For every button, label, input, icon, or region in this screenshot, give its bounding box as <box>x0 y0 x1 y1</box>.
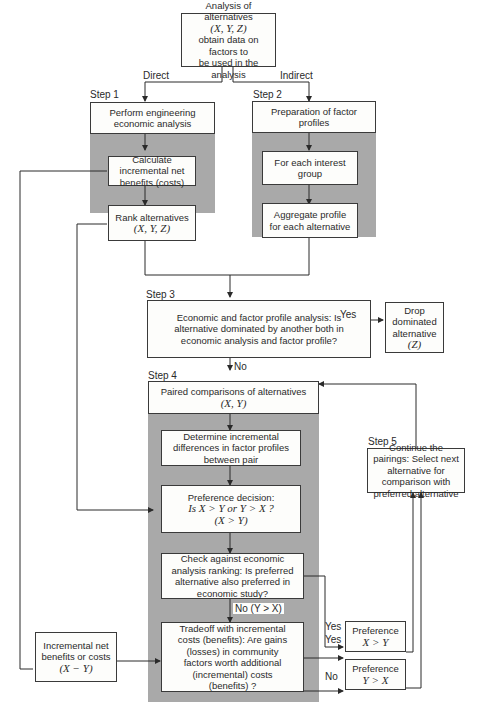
incremental-text: Incremental net benefits or costs <box>40 640 112 663</box>
incremental-math: (X − Y) <box>59 663 92 675</box>
start-line1: Analysis of alternatives <box>186 0 271 23</box>
pref-xy-text: Preference <box>352 625 398 637</box>
step4-differences-box: Determine incremental differences in fac… <box>161 430 301 466</box>
pref-xy-math: X > Y <box>363 637 389 649</box>
step2-label: Step 2 <box>253 89 282 100</box>
step4-differences-text: Determine incremental differences in fac… <box>166 431 296 466</box>
step1-rank-math: (X, Y, Z) <box>134 223 170 235</box>
step4-tradeoff-text: Tradeoff with incremental costs (benefit… <box>172 623 293 692</box>
start-line2: (X, Y, Z) <box>210 23 246 35</box>
preference-y-over-x-box: Preference Y > X <box>345 659 406 690</box>
step1-rank-box: Rank alternatives (X, Y, Z) <box>108 205 196 241</box>
drop-text: Drop dominated alternative <box>390 305 439 340</box>
step2-aggregate-box: Aggregate profile for each alternative <box>262 203 358 238</box>
step3-text: Economic and factor profile analysis: Is… <box>160 312 358 347</box>
preference-x-over-y-box: Preference X > Y <box>345 621 406 652</box>
step2-preparation-box: Preparation of factor profiles <box>252 101 376 133</box>
step4-label: Step 4 <box>148 370 177 381</box>
step1-engineering-text: Perform engineering economic analysis <box>95 107 210 130</box>
drop-math: (Z) <box>408 339 421 351</box>
start-line4: be used in the analysis <box>186 57 271 80</box>
yes-label-2: Yes <box>325 634 341 645</box>
step3-yes-label: Yes <box>340 309 356 320</box>
step4-check-box: Check against economic analysis ranking:… <box>161 553 304 599</box>
no-label: No <box>325 671 338 682</box>
step4-check-text: Check against economic analysis ranking:… <box>166 553 299 599</box>
step3-no-label: No <box>234 361 247 372</box>
step2-interest-text: For each interest group <box>267 157 353 180</box>
step5-text: Continue the pairings: Select next alter… <box>372 442 460 500</box>
pref-yx-math: Y > X <box>363 675 389 687</box>
direct-label: Direct <box>143 70 169 81</box>
start-box: Analysis of alternatives (X, Y, Z) obtai… <box>181 13 276 67</box>
step1-incremental-text: Calculate incremental net benefits (cost… <box>113 154 191 189</box>
yes-label-1: Yes <box>325 621 341 632</box>
step4-paired-math: (X, Y) <box>221 398 247 410</box>
step2-interest-box: For each interest group <box>262 151 358 185</box>
step4-tradeoff-box: Tradeoff with incremental costs (benefit… <box>161 622 304 692</box>
step1-incremental-box: Calculate incremental net benefits (cost… <box>108 156 196 186</box>
step1-label: Step 1 <box>90 89 119 100</box>
step5-box: Continue the pairings: Select next alter… <box>367 448 465 493</box>
step4-paired-box: Paired comparisons of alternatives (X, Y… <box>148 381 319 414</box>
indirect-label: Indirect <box>280 70 313 81</box>
step4-no-label: No (Y > X) <box>233 603 284 614</box>
drop-box: Drop dominated alternative (Z) <box>385 302 444 353</box>
step4-paired-text: Paired comparisons of alternatives <box>161 386 307 398</box>
step1-engineering-box: Perform engineering economic analysis <box>90 102 215 134</box>
incremental-net-box: Incremental net benefits or costs (X − Y… <box>35 632 117 682</box>
step3-label: Step 3 <box>146 289 175 300</box>
step4-preference-result: (X > Y) <box>214 515 247 527</box>
step2-aggregate-text: Aggregate profile for each alternative <box>267 209 353 232</box>
step2-preparation-text: Preparation of factor profiles <box>257 106 371 129</box>
step4-preference-box: Preference decision: Is X > Y or Y > X ?… <box>161 485 301 533</box>
step3-box: Economic and factor profile analysis: Is… <box>147 300 371 358</box>
start-line3: obtain data on factors to <box>186 34 271 57</box>
pref-yx-text: Preference <box>352 663 398 675</box>
